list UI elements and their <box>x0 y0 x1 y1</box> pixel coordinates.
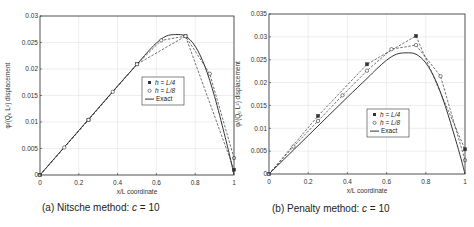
y-tick-label: 0.035 <box>251 10 268 17</box>
y-tick-label: 0 <box>34 171 38 178</box>
marker-square-icon <box>316 114 319 117</box>
marker-circle-icon <box>111 90 114 93</box>
y-tick-label: 0.025 <box>22 39 39 46</box>
y-tick-label: 0.02 <box>254 79 267 86</box>
x-tick-label: 0.2 <box>74 179 83 186</box>
legend-square-icon <box>373 113 376 116</box>
y-tick-label: 0.03 <box>254 33 267 40</box>
y-tick-label: 0.005 <box>22 145 39 152</box>
axes-box <box>269 14 465 174</box>
marker-circle-icon <box>208 72 211 75</box>
marker-circle-icon <box>316 119 319 122</box>
grid <box>269 14 465 174</box>
series-group <box>269 36 465 174</box>
marker-square-icon <box>414 34 417 37</box>
marker-circle-icon <box>184 34 187 37</box>
marker-circle-icon <box>135 63 138 66</box>
x-tick-label: 0 <box>38 179 42 186</box>
legend-label: Exact <box>156 95 172 102</box>
figure-caption: (a) Nitsche method: c = 10 <box>42 202 160 213</box>
x-tick-label: 0.8 <box>421 178 430 185</box>
legend-label: h = L/8 <box>155 87 175 94</box>
series-line-h-l4 <box>40 36 234 175</box>
y-tick-label: 0.025 <box>251 56 268 63</box>
y-tick-label: 0.015 <box>22 92 39 99</box>
y-tick-label: 0.005 <box>251 147 268 154</box>
x-tick-label: 0.4 <box>113 179 122 186</box>
chart-panel-penalty: 00.20.40.60.8100.0050.010.0150.020.0250.… <box>234 10 467 214</box>
marker-circle-icon <box>365 69 368 72</box>
y-tick-label: 0.02 <box>25 65 38 72</box>
series-line-h-l4 <box>269 36 465 174</box>
grid <box>40 16 234 175</box>
x-tick-label: 0.6 <box>152 179 161 186</box>
y-axis-label: φ/(Q₀ L²) displacement <box>234 61 242 127</box>
x-tick-label: 0 <box>267 178 271 185</box>
y-tick-label: 0.015 <box>251 102 268 109</box>
marker-circle-icon <box>390 48 393 51</box>
y-tick-label: 0.03 <box>25 12 38 19</box>
marker-circle-icon <box>341 94 344 97</box>
figure-caption: (b) Penalty method: c = 10 <box>272 203 390 214</box>
legend-label: Exact <box>381 127 397 134</box>
x-tick-label: 0.6 <box>382 178 391 185</box>
series-line-h-l8 <box>40 36 234 175</box>
series-line-exact <box>40 35 234 175</box>
x-tick-label: 0.2 <box>304 178 313 185</box>
y-axis-label: φ/(Q₀ L²) displacement <box>4 62 12 128</box>
marker-circle-icon <box>414 43 417 46</box>
legend: h = L/4h = L/8Exact <box>142 77 184 105</box>
marker-circle-icon <box>439 74 442 77</box>
chart-panel-nitsche: 00.20.40.60.8100.0050.010.0150.020.0250.… <box>4 12 236 213</box>
legend-square-icon <box>148 81 151 84</box>
x-tick-label: 1 <box>232 179 236 186</box>
legend-label: h = L/4 <box>155 79 175 86</box>
marker-circle-icon <box>160 39 163 42</box>
y-tick-label: 0 <box>263 170 267 177</box>
figure: 00.20.40.60.8100.0050.010.0150.020.0250.… <box>0 0 474 227</box>
legend-label: h = L/4 <box>380 111 400 118</box>
legend-circle-icon <box>148 89 151 92</box>
x-tick-label: 0.8 <box>191 179 200 186</box>
x-axis-label: x/L coordinate <box>117 188 158 195</box>
marker-circle-icon <box>63 146 66 149</box>
marker-square-icon <box>365 63 368 66</box>
legend-label: h = L/8 <box>380 119 400 126</box>
x-tick-label: 0.4 <box>343 178 352 185</box>
x-tick-label: 1 <box>463 178 467 185</box>
y-tick-label: 0.01 <box>25 118 38 125</box>
legend-circle-icon <box>373 121 376 124</box>
series-group <box>40 35 234 175</box>
x-axis-label: x/L coordinate <box>347 187 388 194</box>
y-tick-label: 0.01 <box>254 125 267 132</box>
marker-circle-icon <box>87 118 90 121</box>
marker-circle-icon <box>292 145 295 148</box>
legend: h = L/4h = L/8Exact <box>367 109 409 137</box>
